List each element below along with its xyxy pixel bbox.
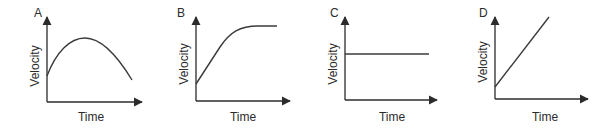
panel-letter: D [479,6,488,20]
y-axis-label: Velocity [177,43,191,84]
panel-letter: B [177,6,185,20]
velocity-curve [495,17,549,87]
y-axis-label: Velocity [28,45,42,86]
panel-letter: A [34,6,42,20]
x-axis-label: Time [230,110,257,124]
velocity-curve [196,26,277,84]
x-axis-label: Time [78,110,105,124]
panel-letter: C [330,6,339,20]
x-axis-label: Time [379,110,406,124]
panel-d: D Time Velocity [476,6,588,124]
velocity-time-graphs: A Time Velocity B Time Velocity C Time V… [0,0,616,131]
velocity-curve [47,38,132,80]
panel-c: C Time Velocity [326,6,437,124]
panel-b: B Time Velocity [177,6,290,124]
panel-a: A Time Velocity [28,6,142,124]
y-axis-label: Velocity [326,43,340,84]
x-axis-label: Time [532,110,559,124]
y-axis-label: Velocity [476,41,490,82]
